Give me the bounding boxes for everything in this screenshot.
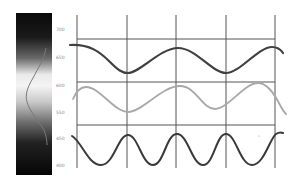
spectrum-bar	[16, 13, 52, 175]
tick-label-400: 400	[56, 163, 65, 168]
wavelength-diagram: 700 650 600 550 450 400	[0, 0, 301, 190]
speck	[258, 135, 259, 136]
grid	[77, 15, 275, 168]
tick-label-700: 700	[56, 27, 65, 32]
tick-label-650: 650	[56, 55, 65, 60]
medium-wavelength-wave	[73, 83, 286, 114]
tick-label-550: 550	[56, 110, 65, 115]
tick-label-600: 600	[56, 83, 65, 88]
spectrum-tick-labels: 700 650 600 550 450 400	[56, 27, 65, 168]
short-wavelength-wave	[72, 132, 283, 165]
tick-label-450: 450	[56, 136, 65, 141]
